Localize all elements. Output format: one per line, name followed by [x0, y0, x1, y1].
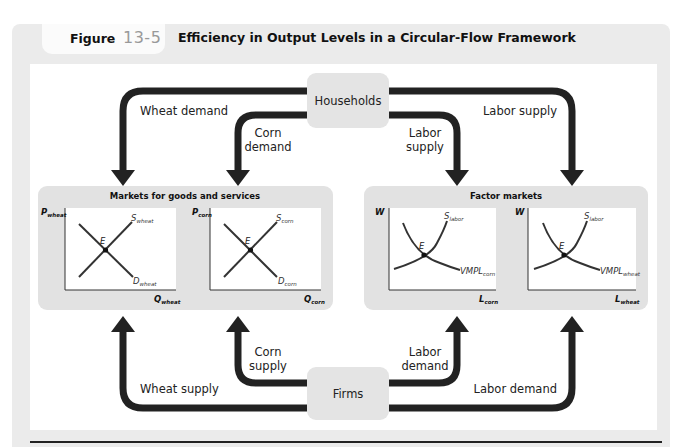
chart-corn-labor-market: E Slabor VMPLcorn W Lcorn: [375, 207, 498, 305]
label-wheat-demand: Wheat demand: [140, 104, 228, 118]
goods-panel-title: Markets for goods and services: [110, 191, 260, 201]
label-labor-demand-outer: Labor demand: [474, 382, 557, 396]
equilibrium-label: E: [559, 241, 565, 251]
equilibrium-point: [103, 247, 108, 252]
chart-corn-market: E Scorn Dcorn Pcorn Qcorn: [192, 207, 325, 305]
panel-goods-markets: Markets for goods and services E Swheat …: [38, 186, 333, 310]
label-labor-supply-outer: Labor supply: [483, 104, 557, 118]
y-axis-label: W: [375, 207, 385, 217]
arrowhead-up-icon: [226, 316, 250, 332]
households-label: Households: [315, 94, 382, 108]
label-wheat-supply: Wheat supply: [140, 382, 219, 396]
panel-factor-markets: Factor markets E Slabor VMPLcorn W Lcorn…: [364, 186, 648, 310]
equilibrium-label: E: [419, 241, 425, 251]
arrowhead-up-icon: [445, 316, 469, 332]
label-corn-demand-line2: demand: [244, 140, 291, 154]
label-labor-supply-inner-line1: Labor: [409, 126, 442, 140]
factor-panel-title: Factor markets: [470, 191, 542, 201]
label-labor-supply-inner-line2: supply: [406, 140, 444, 154]
equilibrium-point: [561, 252, 566, 257]
circular-flow-diagram: Households Firms Wheat demand Corn deman…: [0, 0, 685, 447]
arrowhead-up-icon: [560, 316, 584, 332]
arrowhead-up-icon: [111, 316, 135, 332]
chart-wheat-labor-market: E Slabor VMPLwheat W Lwheat: [515, 207, 641, 305]
arrowhead-down-icon: [226, 170, 250, 186]
node-households: Households: [307, 73, 389, 128]
equilibrium-label: E: [245, 236, 251, 246]
arrowhead-down-icon: [560, 170, 584, 186]
equilibrium-label: E: [100, 236, 106, 246]
arrowhead-down-icon: [445, 170, 469, 186]
equilibrium-point: [421, 252, 426, 257]
label-labor-demand-inner-line2: demand: [401, 359, 448, 373]
label-labor-demand-inner-line1: Labor: [409, 345, 442, 359]
label-corn-supply-line1: Corn: [255, 345, 282, 359]
label-corn-supply-line2: supply: [249, 359, 287, 373]
arrowhead-down-icon: [111, 170, 135, 186]
node-firms: Firms: [307, 367, 389, 420]
y-axis-label: W: [515, 207, 525, 217]
equilibrium-point: [248, 247, 253, 252]
label-corn-demand-line1: Corn: [255, 126, 282, 140]
firms-label: Firms: [333, 387, 364, 401]
